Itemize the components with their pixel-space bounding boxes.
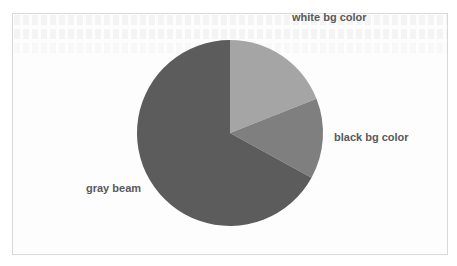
slice-label-black-bg-color: black bg color <box>334 131 409 143</box>
pie-slices <box>137 40 323 226</box>
slice-label-gray-beam: gray beam <box>86 182 141 194</box>
slice-label-white-bg-color: white bg color <box>292 11 367 23</box>
